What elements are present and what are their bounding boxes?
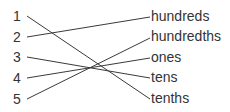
connection-2-hundreds (27, 17, 150, 37)
right-item-hundreds: hundreds (151, 8, 209, 24)
left-item-4: 4 (13, 70, 21, 86)
right-item-tens: tens (151, 69, 177, 85)
matching-diagram: 1 2 3 4 5 hundreds hundredths ones tens … (0, 0, 230, 112)
connection-1-tenths (27, 16, 150, 99)
left-item-5: 5 (13, 91, 21, 107)
connection-5-hundredths (27, 38, 150, 99)
left-item-3: 3 (13, 49, 21, 65)
left-item-2: 2 (13, 29, 21, 45)
right-item-ones: ones (151, 49, 181, 65)
right-item-tenths: tenths (151, 90, 189, 106)
right-item-hundredths: hundredths (151, 28, 221, 44)
left-item-1: 1 (13, 8, 21, 24)
